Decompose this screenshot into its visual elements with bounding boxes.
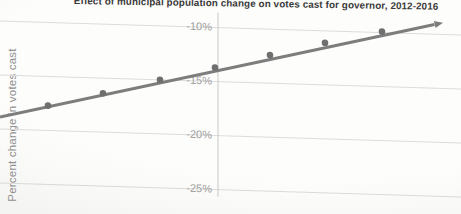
y-tick-labels-group: -10%-15%-20%-25% xyxy=(186,20,212,195)
gridline xyxy=(0,129,461,143)
y-tick-label: -25% xyxy=(186,182,212,195)
y-tick-label: -20% xyxy=(186,128,212,141)
gridline xyxy=(0,183,461,197)
gridlines-group xyxy=(0,21,461,197)
data-point xyxy=(267,52,274,59)
plot-area: -10%-15%-20%-25% xyxy=(0,0,461,214)
data-point xyxy=(212,64,219,71)
y-tick-label: -10% xyxy=(186,20,212,33)
trend-group xyxy=(0,8,443,131)
data-points-group xyxy=(45,18,386,119)
data-point xyxy=(379,28,386,35)
trend-arrowhead-icon xyxy=(434,21,443,28)
gridline xyxy=(0,75,461,89)
data-point xyxy=(322,39,329,46)
chart-screenshot: { "header": { "title": "Effect of munici… xyxy=(0,0,461,214)
trend-line xyxy=(0,11,435,130)
